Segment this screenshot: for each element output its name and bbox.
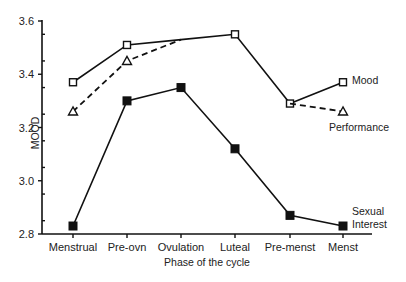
series-labels: MoodPerformanceSexualInterest	[329, 74, 389, 230]
open-square-marker	[340, 79, 347, 86]
solid-line	[73, 34, 343, 103]
open-square-marker	[70, 79, 77, 86]
filled-square-marker	[231, 145, 239, 153]
y-axis-title: MOOD	[29, 116, 41, 149]
series-label-mood: Mood	[352, 74, 378, 86]
x-axis-title: Phase of the cycle	[164, 256, 250, 268]
x-tick-label: Ovulation	[158, 241, 204, 253]
series-performance	[69, 40, 348, 115]
dashed-line	[290, 104, 343, 112]
x-tick-label: Pre-ovn	[108, 241, 147, 253]
y-tick-label: 3.4	[19, 68, 34, 80]
open-square-marker	[232, 31, 239, 38]
series-label-performance: Performance	[329, 121, 389, 133]
series-mood	[70, 31, 347, 107]
x-axis-ticks: MenstrualPre-ovnOvulationLutealPre-menst…	[49, 234, 358, 253]
open-square-marker	[124, 41, 131, 48]
filled-square-marker	[339, 222, 347, 230]
x-tick-label: Luteal	[220, 241, 250, 253]
filled-square-marker	[123, 97, 131, 105]
solid-line	[73, 88, 343, 226]
x-tick-label: Pre-menst	[265, 241, 316, 253]
filled-square-marker	[69, 222, 77, 230]
y-tick-label: 3.0	[19, 175, 34, 187]
x-tick-label: Menstrual	[49, 241, 97, 253]
filled-square-marker	[286, 211, 294, 219]
filled-square-marker	[177, 84, 185, 92]
x-tick-label: Menst	[328, 241, 358, 253]
y-tick-label: 2.8	[19, 228, 34, 240]
axes	[42, 20, 372, 234]
y-tick-label: 3.6	[19, 15, 34, 27]
line-chart: 2.83.03.23.43.6 MenstrualPre-ovnOvulatio…	[0, 0, 406, 282]
series-label-sexual-interest: SexualInterest	[352, 205, 387, 230]
series-group	[69, 31, 348, 230]
open-triangle-marker	[123, 56, 132, 64]
